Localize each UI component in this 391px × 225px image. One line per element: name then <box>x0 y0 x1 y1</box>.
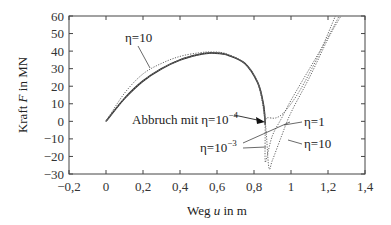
y-tick-label: −30 <box>44 167 64 182</box>
annotation-eta10-bottom: η=10 <box>304 136 331 151</box>
x-tick-label: 1,2 <box>320 179 336 194</box>
annotation-abbruch: Abbruch mit η=10−4 <box>132 110 239 127</box>
y-tick-label: 50 <box>51 26 64 41</box>
x-tick-label: 0,6 <box>209 179 226 194</box>
arrow-head-icon <box>256 117 265 124</box>
y-tick-label: 40 <box>51 44 64 59</box>
y-tick-label: −10 <box>44 131 64 146</box>
y-tick-label: 20 <box>51 79 64 94</box>
y-tick-label: 0 <box>58 114 65 129</box>
y-tick-label: 30 <box>51 61 64 76</box>
chart: −0,200,20,40,60,811,21,46050403020100−10… <box>0 0 391 225</box>
leader-line <box>243 147 266 148</box>
x-tick-label: 0,8 <box>246 179 262 194</box>
y-axis-label: Kraft F in MN <box>15 56 30 133</box>
annotation-eta1: η=1 <box>304 114 325 129</box>
x-tick-label: 0 <box>103 179 110 194</box>
y-tick-label: 60 <box>51 9 64 24</box>
annotation-eta1e-3: η=10−3 <box>200 138 237 155</box>
x-tick-label: 0,4 <box>172 179 189 194</box>
annotation-eta10-top: η=10 <box>125 30 152 45</box>
leader-line <box>138 46 150 68</box>
y-tick-label: −20 <box>44 149 64 164</box>
x-tick-label: 1 <box>288 179 295 194</box>
x-tick-label: 0,2 <box>135 179 151 194</box>
x-axis-label: Weg u in m <box>187 203 247 218</box>
leader-line <box>288 140 302 144</box>
axis-tick-labels: −0,200,20,40,60,811,21,46050403020100−10… <box>44 9 374 195</box>
y-tick-label: 10 <box>51 96 64 111</box>
x-tick-label: 1,4 <box>357 179 374 194</box>
